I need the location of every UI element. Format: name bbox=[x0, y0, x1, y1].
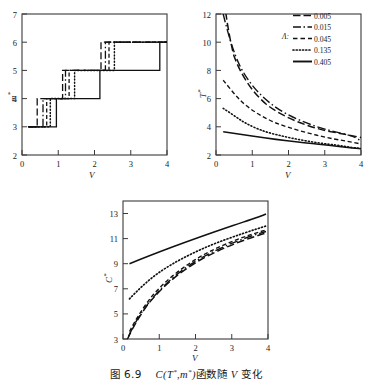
plot-frame bbox=[22, 14, 167, 155]
series-group bbox=[128, 214, 267, 339]
y-tick-label: 8 bbox=[207, 66, 211, 76]
x-axis-ticks: 0 1 2 3 4 bbox=[214, 150, 364, 169]
x-tick-label: 0 bbox=[214, 159, 218, 169]
series-group bbox=[223, 0, 361, 149]
legend-label-0.015: 0.015 bbox=[314, 23, 331, 32]
legend-label-0.135: 0.135 bbox=[314, 46, 331, 55]
y-axis-ticks: 7 6 5 4 3 2 bbox=[13, 10, 27, 161]
chart-c-star-svg: 13 11 9 7 5 3 0 1 2 3 4 bbox=[93, 193, 293, 368]
x-tick-label: 3 bbox=[230, 343, 234, 353]
series-line-0.015 bbox=[29, 42, 168, 127]
series-line-0.135 bbox=[223, 108, 361, 148]
chart-m-star-svg: 7 6 5 4 3 2 0 1 2 3 4 bbox=[0, 0, 186, 196]
y-axis-label-t: T* bbox=[196, 89, 208, 98]
legend: Λ: 0.005 0.015 0.045 0.135 0.405 bbox=[281, 12, 331, 67]
series-line-0.405 bbox=[223, 132, 361, 149]
series-line-0.005 bbox=[128, 233, 267, 339]
x-axis-ticks: 0 1 2 3 4 bbox=[121, 334, 271, 353]
legend-param-symbol: Λ: bbox=[281, 32, 289, 41]
series-line-0.015 bbox=[129, 232, 267, 337]
series-line-0.005 bbox=[29, 42, 168, 127]
figure-6-9: 7 6 5 4 3 2 0 1 2 3 4 bbox=[0, 0, 372, 387]
y-tick-label: 4 bbox=[207, 122, 212, 132]
figure-caption-formula: C(T*,m*) bbox=[156, 369, 196, 380]
chart-m-star: 7 6 5 4 3 2 0 1 2 3 4 bbox=[0, 0, 186, 196]
x-tick-label: 4 bbox=[359, 159, 364, 169]
chart-t-star-svg: 12 10 8 6 4 2 0 1 2 3 4 bbox=[186, 0, 372, 196]
y-tick-label: 6 bbox=[13, 38, 17, 48]
y-tick-label: 11 bbox=[110, 234, 118, 244]
x-tick-label: 1 bbox=[250, 159, 254, 169]
x-tick-label: 2 bbox=[193, 343, 197, 353]
y-tick-label: 13 bbox=[110, 209, 119, 219]
x-tick-label: 1 bbox=[56, 159, 60, 169]
chart-c-star: 13 11 9 7 5 3 0 1 2 3 4 bbox=[93, 193, 293, 368]
x-tick-label: 0 bbox=[121, 343, 125, 353]
x-axis-ticks: 0 1 2 3 4 bbox=[20, 150, 170, 169]
y-tick-label: 7 bbox=[114, 284, 118, 294]
series-line-0.405 bbox=[130, 214, 267, 264]
series-line-0.045 bbox=[130, 230, 267, 332]
y-tick-label: 12 bbox=[203, 10, 212, 20]
x-tick-label: 0 bbox=[20, 159, 24, 169]
y-tick-label: 3 bbox=[13, 122, 17, 132]
y-tick-label: 7 bbox=[13, 10, 17, 20]
x-axis-label-v: V bbox=[89, 170, 95, 180]
y-tick-label: 2 bbox=[207, 151, 211, 161]
legend-label-0.405: 0.405 bbox=[314, 58, 331, 67]
series-group bbox=[29, 42, 168, 127]
x-tick-label: 3 bbox=[323, 159, 327, 169]
figure-caption-text: 函数随 V 变化 bbox=[196, 368, 262, 380]
y-tick-label: 10 bbox=[203, 38, 212, 48]
y-axis-label-m: m* bbox=[6, 92, 18, 102]
chart-t-star: 12 10 8 6 4 2 0 1 2 3 4 bbox=[186, 0, 372, 196]
legend-label-0.005: 0.005 bbox=[314, 12, 331, 21]
x-tick-label: 3 bbox=[129, 159, 133, 169]
x-axis-label-v: V bbox=[285, 170, 291, 180]
figure-caption: 图 6.9 C(T*,m*)函数随 V 变化 bbox=[0, 366, 372, 381]
y-tick-label: 9 bbox=[114, 259, 118, 269]
x-tick-label: 2 bbox=[286, 159, 290, 169]
y-axis-ticks: 12 10 8 6 4 2 bbox=[203, 10, 222, 161]
x-axis-label-v: V bbox=[192, 353, 198, 363]
y-tick-label: 3 bbox=[114, 335, 118, 345]
series-line-0.135 bbox=[29, 42, 168, 127]
x-tick-label: 4 bbox=[266, 343, 271, 353]
y-tick-label: 5 bbox=[13, 66, 17, 76]
series-line-0.045 bbox=[29, 42, 168, 127]
y-axis-label-c: C* bbox=[102, 273, 114, 283]
y-tick-label: 5 bbox=[114, 309, 118, 319]
y-tick-label: 2 bbox=[13, 151, 17, 161]
figure-caption-label: 图 6.9 bbox=[110, 368, 142, 380]
legend-label-0.045: 0.045 bbox=[314, 35, 331, 44]
x-tick-label: 2 bbox=[92, 159, 96, 169]
x-tick-label: 1 bbox=[157, 343, 161, 353]
x-tick-label: 4 bbox=[165, 159, 170, 169]
series-line-0.135 bbox=[130, 226, 267, 299]
series-line-0.405 bbox=[29, 42, 168, 127]
